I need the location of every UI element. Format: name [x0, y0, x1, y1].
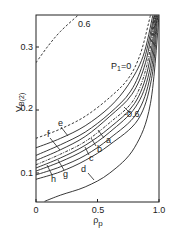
label-top-0.6: 0.6 — [78, 19, 91, 29]
x-tick-0.5: 0.5 — [92, 205, 105, 215]
x-tick-0: 0 — [33, 205, 38, 215]
label-neg-0.6: -0.6 — [124, 109, 140, 119]
curve-p1=0.6 — [36, 16, 78, 63]
x-axis-label: ρp — [93, 215, 103, 228]
label-e: e — [58, 118, 63, 128]
chart: 0.1 0.2 0.3 0 0.5 1.0 ρp VB(2) 0.6 P1=0 … — [0, 0, 172, 240]
curve-e — [36, 16, 153, 148]
x-tick-1.0: 1.0 — [153, 205, 166, 215]
label-d: d — [81, 164, 86, 174]
label-c: c — [89, 153, 94, 163]
label-a: a — [106, 135, 111, 145]
curve-h — [36, 16, 158, 180]
label-b: b — [97, 144, 102, 154]
y-tick-0.1: 0.1 — [20, 168, 33, 178]
y-tick-0.3: 0.3 — [20, 42, 33, 52]
label-h: h — [51, 174, 56, 184]
curve-d — [45, 16, 159, 202]
label-f: f — [47, 129, 50, 139]
label-g: g — [63, 169, 68, 179]
label-p1: P1=0 — [111, 61, 131, 72]
